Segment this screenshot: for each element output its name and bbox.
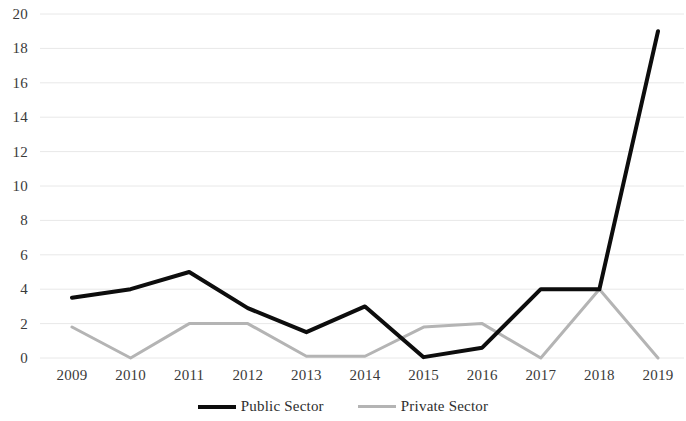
- legend-swatch-public-sector-icon: [198, 405, 236, 409]
- x-axis-tick-label: 2014: [337, 368, 393, 383]
- series-public-sector: [72, 31, 658, 357]
- y-axis-tick-label: 0: [2, 351, 28, 366]
- x-axis-tick-label: 2019: [630, 368, 686, 383]
- y-axis-tick-label: 6: [2, 248, 28, 263]
- x-axis-tick-label: 2010: [103, 368, 159, 383]
- x-axis-tick-label: 2012: [220, 368, 276, 383]
- x-axis-tick-label: 2018: [571, 368, 627, 383]
- x-axis-tick-label: 2016: [454, 368, 510, 383]
- x-axis-tick-label: 2011: [161, 368, 217, 383]
- y-axis-tick-label: 10: [2, 179, 28, 194]
- chart-canvas: [0, 0, 686, 421]
- line-chart: 02468101214161820 2009201020112012201320…: [0, 0, 686, 421]
- y-axis-tick-label: 14: [2, 110, 28, 125]
- y-axis-tick-label: 12: [2, 145, 28, 160]
- y-axis-tick-label: 8: [2, 213, 28, 228]
- y-axis-tick-label: 20: [2, 7, 28, 22]
- y-axis-tick-label: 2: [2, 317, 28, 332]
- legend-item-private-sector: Private Sector: [358, 398, 488, 415]
- x-axis-tick-label: 2009: [44, 368, 100, 383]
- y-axis-tick-label: 4: [2, 282, 28, 297]
- legend-swatch-private-sector-icon: [358, 405, 396, 408]
- y-axis-tick-label: 18: [2, 41, 28, 56]
- y-axis-tick-label: 16: [2, 76, 28, 91]
- series-line: [72, 31, 658, 357]
- x-axis-tick-label: 2015: [396, 368, 452, 383]
- x-axis-tick-label: 2017: [513, 368, 569, 383]
- legend-label-public-sector: Public Sector: [241, 398, 324, 415]
- chart-legend: Public Sector Private Sector: [0, 398, 686, 415]
- legend-item-public-sector: Public Sector: [198, 398, 324, 415]
- legend-label-private-sector: Private Sector: [401, 398, 488, 415]
- plot-area: [0, 0, 686, 421]
- x-axis-tick-label: 2013: [278, 368, 334, 383]
